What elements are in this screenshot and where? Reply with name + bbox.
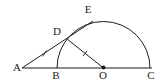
semicircle-figure-svg: ABOCDE	[0, 0, 164, 82]
semicircle-arc	[57, 22, 150, 69]
label-E: E	[85, 3, 92, 15]
label-B: B	[52, 69, 59, 81]
geometry-diagram: ABOCDE	[0, 0, 164, 82]
label-O: O	[99, 69, 107, 81]
label-C: C	[147, 69, 154, 81]
label-A: A	[13, 61, 21, 73]
label-D: D	[53, 25, 61, 37]
